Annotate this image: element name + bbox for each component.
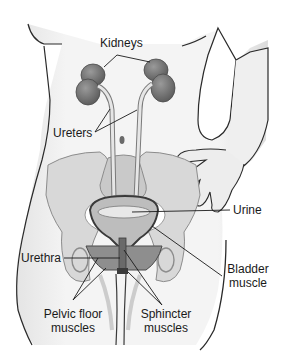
label-bladder-muscle: Bladder muscle: [226, 262, 270, 290]
label-sphincter-muscles: Sphincter muscles: [136, 307, 196, 335]
label-bladder-muscle-line2: muscle: [226, 276, 270, 290]
label-sphincter-line2: muscles: [136, 321, 196, 335]
label-pelvic-floor-muscles: Pelvic floor muscles: [36, 307, 110, 335]
navel: [120, 136, 125, 144]
label-urethra: Urethra: [21, 251, 61, 265]
label-kidneys: Kidneys: [100, 36, 143, 50]
label-bladder-muscle-line1: Bladder: [226, 262, 270, 276]
label-sphincter-line1: Sphincter: [136, 307, 196, 321]
label-ureters: Ureters: [53, 126, 92, 140]
urinary-system-diagram: Kidneys Ureters Urine Urethra Bladder mu…: [0, 0, 286, 361]
label-urine: Urine: [233, 203, 262, 217]
label-pelvic-floor-line2: muscles: [36, 321, 110, 335]
urethra: [119, 238, 126, 272]
label-pelvic-floor-line1: Pelvic floor: [36, 307, 110, 321]
